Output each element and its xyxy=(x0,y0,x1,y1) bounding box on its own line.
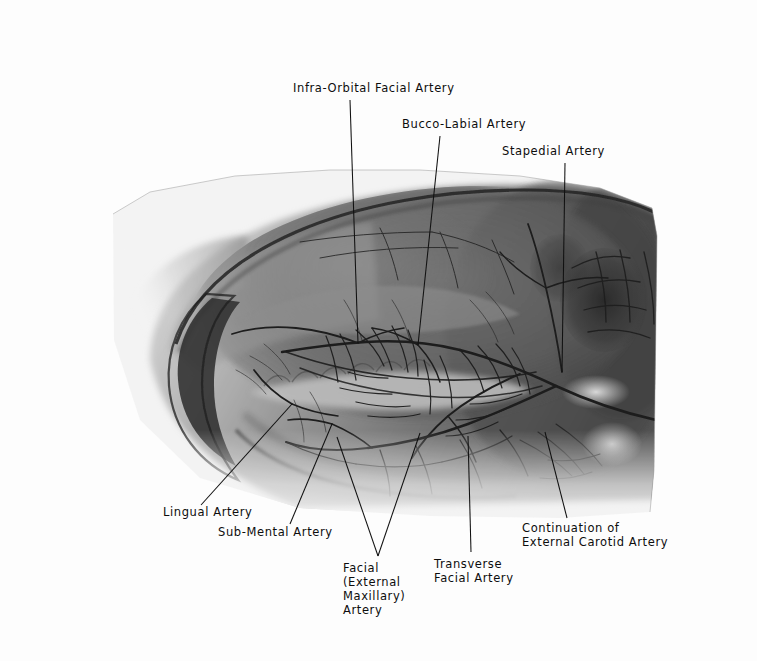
label-lingual-artery: Lingual Artery xyxy=(163,505,274,519)
label-infra-orbital-facial-artery: Infra-Orbital Facial Artery xyxy=(293,81,476,95)
label-transverse-facial-artery: Transverse Facial Artery xyxy=(433,557,535,585)
label-stapedial-artery: Stapedial Artery xyxy=(502,144,626,158)
label-bucco-labial-artery: Bucco-Labial Artery xyxy=(402,117,547,131)
label-sub-mental-artery: Sub-Mental Artery xyxy=(218,525,354,539)
angiogram-figure: Infra-Orbital Facial Artery Bucco-Labial… xyxy=(0,0,757,661)
